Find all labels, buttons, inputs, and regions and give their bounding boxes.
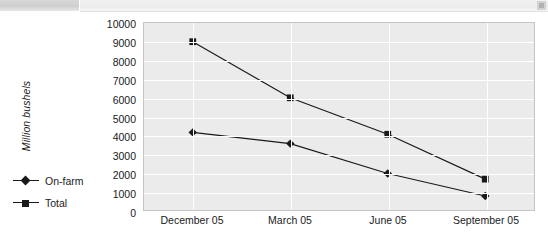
vertical-gridline [291, 23, 292, 210]
horizontal-gridline [144, 42, 534, 43]
resize-grip-icon[interactable] [537, 1, 546, 10]
horizontal-gridline [144, 118, 534, 119]
horizontal-gridline [144, 80, 534, 81]
plot-area [143, 22, 535, 211]
diamond-marker-icon [13, 175, 39, 187]
square-marker-icon [13, 197, 39, 209]
x-axis-tick-labels: December 05March 05June 05September 05 [143, 214, 535, 234]
chart-legend: On-farmTotal [13, 170, 123, 214]
vertical-gridline [193, 23, 194, 210]
y-axis-tick-label: 7000 [96, 76, 136, 86]
horizontal-gridline [144, 136, 534, 137]
x-axis-tick-label: September 05 [421, 214, 548, 226]
legend-item-total[interactable]: Total [13, 192, 123, 214]
y-axis-tick-label: 6000 [96, 95, 136, 105]
y-axis-tick-label: 4000 [96, 132, 136, 142]
vertical-gridline [487, 23, 488, 210]
toolbar-left-segment [0, 0, 79, 11]
y-axis-tick-label: 10000 [96, 19, 136, 29]
y-axis-tick-label: 9000 [96, 38, 136, 48]
legend-label: Total [39, 197, 67, 209]
series-line-on-farm [193, 132, 486, 196]
cropped-toolbar-strip [0, 0, 548, 14]
vertical-gridline [389, 23, 390, 210]
horizontal-gridline [144, 174, 534, 175]
horizontal-gridline [144, 99, 534, 100]
legend-label: On-farm [39, 175, 84, 187]
horizontal-gridline [144, 193, 534, 194]
toolbar-right-segment [80, 0, 548, 12]
series-lines [144, 23, 534, 210]
y-axis-tick-label: 3000 [96, 151, 136, 161]
y-axis-title: Million bushels [20, 61, 32, 171]
legend-item-on-farm[interactable]: On-farm [13, 170, 123, 192]
horizontal-gridline [144, 61, 534, 62]
horizontal-gridline [144, 155, 534, 156]
y-axis-tick-label: 8000 [96, 57, 136, 67]
line-chart-figure: Million bushels 100009000800070006000500… [0, 14, 548, 242]
y-axis-tick-label: 5000 [96, 114, 136, 124]
